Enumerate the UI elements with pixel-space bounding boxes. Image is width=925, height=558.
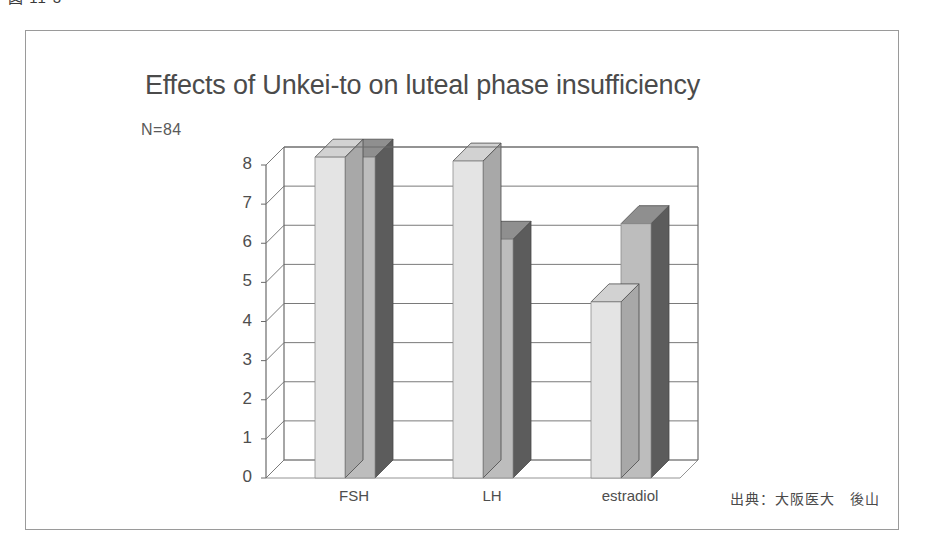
chart-svg (0, 0, 925, 558)
bar-lh-s1 (453, 143, 501, 478)
bar-chart-plot: 012345678 FSHLHestradiol (0, 0, 925, 558)
y-tick-label-3: 3 (226, 350, 252, 370)
y-tick-label-7: 7 (226, 193, 252, 213)
y-tick-label-5: 5 (226, 271, 252, 291)
x-category-label-estradiol: estradiol (570, 487, 690, 504)
y-tick-label-6: 6 (226, 232, 252, 252)
y-tick-label-1: 1 (226, 428, 252, 448)
y-tick-label-2: 2 (226, 389, 252, 409)
y-tick-label-8: 8 (226, 154, 252, 174)
bar-fsh-s1 (315, 139, 363, 478)
y-tick-label-0: 0 (226, 467, 252, 487)
x-category-label-fsh: FSH (294, 487, 414, 504)
bar-estradiol-s1 (591, 284, 639, 478)
y-tick-label-4: 4 (226, 311, 252, 331)
source-attribution: 出典：大阪医大 後山 (730, 488, 880, 508)
x-category-label-lh: LH (432, 487, 552, 504)
